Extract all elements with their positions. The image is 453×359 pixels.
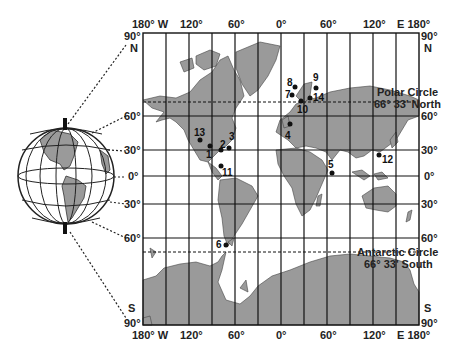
svg-text:90°: 90° [421, 317, 438, 329]
svg-text:S: S [424, 302, 431, 314]
svg-text:7: 7 [285, 89, 291, 100]
svg-text:60°: 60° [320, 329, 337, 341]
svg-text:E 180°: E 180° [397, 329, 430, 341]
svg-text:120°: 120° [363, 329, 386, 341]
svg-text:120°: 120° [363, 18, 386, 30]
svg-text:9: 9 [313, 72, 319, 83]
svg-text:8: 8 [287, 77, 293, 88]
svg-text:30°: 30° [421, 198, 438, 210]
svg-text:N: N [424, 42, 432, 54]
svg-text:14: 14 [313, 92, 325, 103]
latitude-labels-left: 90° N 60° 30° 0° 30° 60° S 90° [124, 30, 141, 329]
svg-text:60°: 60° [124, 110, 141, 122]
svg-text:4: 4 [285, 130, 291, 141]
svg-text:90°: 90° [421, 30, 438, 42]
svg-text:60°: 60° [228, 329, 245, 341]
svg-text:120°: 120° [180, 18, 203, 30]
svg-text:90°: 90° [124, 30, 141, 42]
svg-text:2: 2 [220, 139, 226, 150]
svg-text:0°: 0° [276, 18, 287, 30]
svg-text:0°: 0° [128, 170, 139, 182]
svg-text:30°: 30° [421, 144, 438, 156]
svg-text:90°: 90° [124, 317, 141, 329]
svg-text:66° 33' South: 66° 33' South [364, 258, 433, 270]
svg-text:10: 10 [297, 104, 309, 115]
longitude-labels-top: 180° W 120° 60° 0° 60° 120° E 180° [132, 18, 430, 30]
svg-text:66° 33' North: 66° 33' North [374, 98, 441, 110]
svg-text:120°: 120° [180, 329, 203, 341]
svg-text:180° W: 180° W [132, 329, 169, 341]
globe-icon [18, 118, 114, 234]
svg-text:60°: 60° [320, 18, 337, 30]
svg-text:0°: 0° [424, 170, 435, 182]
svg-text:60°: 60° [421, 110, 438, 122]
svg-text:60°: 60° [421, 232, 438, 244]
svg-text:30°: 30° [124, 144, 141, 156]
svg-text:60°: 60° [228, 18, 245, 30]
antarctic-circle-label: Antarctic Circle 66° 33' South [357, 246, 438, 270]
svg-text:12: 12 [382, 154, 394, 165]
svg-text:E 180°: E 180° [397, 18, 430, 30]
world-map-figure: 180° W 120° 60° 0° 60° 120° E 180° 180° … [0, 0, 453, 359]
svg-text:Antarctic Circle: Antarctic Circle [357, 246, 438, 258]
longitude-labels-bottom: 180° W 120° 60° 0° 60° 120° E 180° [132, 329, 430, 341]
svg-text:Polar Circle: Polar Circle [377, 86, 438, 98]
latitude-labels-right: 90° N 60° 30° 0° 30° 60° S 90° [421, 30, 438, 329]
polar-circle-label: Polar Circle 66° 33' North [374, 86, 441, 110]
svg-text:0°: 0° [276, 329, 287, 341]
svg-text:60°: 60° [124, 232, 141, 244]
svg-text:1: 1 [206, 149, 212, 160]
svg-text:30°: 30° [124, 198, 141, 210]
svg-text:5: 5 [328, 159, 334, 170]
svg-text:S: S [128, 302, 135, 314]
svg-text:3: 3 [229, 131, 235, 142]
south-america-landmass [218, 178, 258, 246]
svg-text:180° W: 180° W [132, 18, 169, 30]
australia-landmass [362, 186, 396, 212]
svg-text:N: N [130, 42, 138, 54]
svg-text:13: 13 [194, 127, 206, 138]
svg-text:11: 11 [222, 167, 233, 178]
svg-text:6: 6 [216, 239, 222, 250]
